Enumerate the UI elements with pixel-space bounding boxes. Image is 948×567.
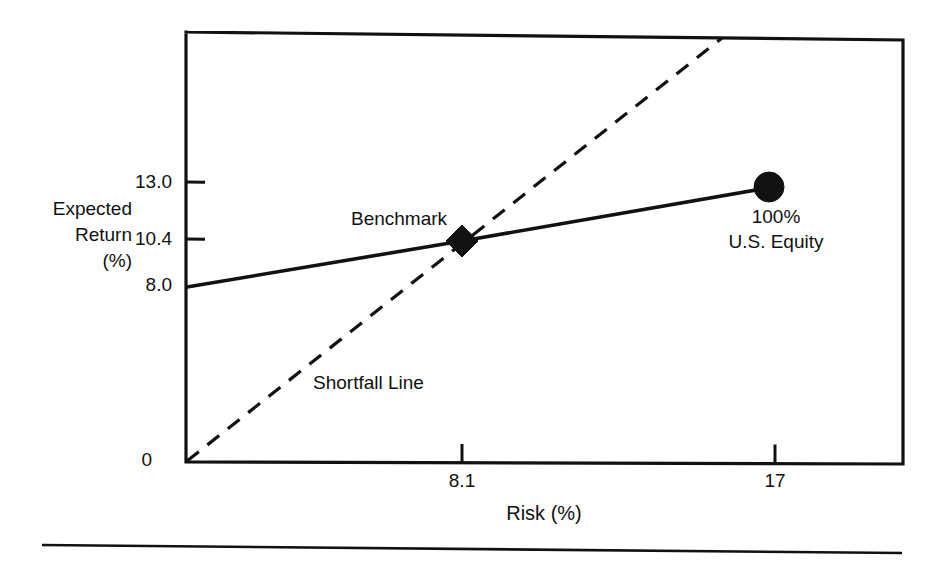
y-axis-title-line-3: (%) <box>0 250 132 272</box>
shortfall-line-annotation: Shortfall Line <box>313 372 424 394</box>
x-axis-title: Risk (%) <box>434 502 654 526</box>
chart-figure: Expected Return (%) 13.0 10.4 8.0 0 8.1 … <box>0 0 948 567</box>
y-tick-label-8-0: 8.0 <box>52 274 172 296</box>
benchmark-annotation: Benchmark <box>351 208 447 230</box>
us-equity-annotation-line-1: 100% <box>676 206 876 228</box>
y-tick-label-0: 0 <box>32 449 152 471</box>
benchmark-marker <box>446 225 478 257</box>
us-equity-marker <box>754 172 784 202</box>
x-tick-label-17: 17 <box>715 470 835 492</box>
x-tick-label-8-1: 8.1 <box>402 470 522 492</box>
us-equity-annotation-line-2: U.S. Equity <box>676 231 876 253</box>
y-tick-label-10-4: 10.4 <box>52 228 172 250</box>
footer-rule <box>42 545 902 553</box>
y-axis-title-line-1: Expected <box>0 198 132 220</box>
y-tick-label-13: 13.0 <box>52 171 172 193</box>
